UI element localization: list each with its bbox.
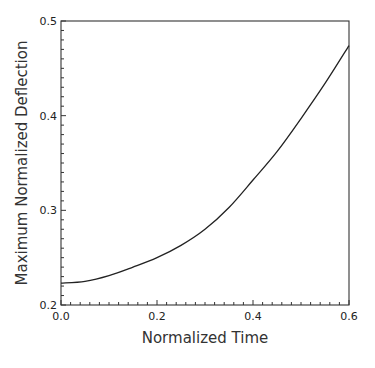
x-tick-label: 0.6 [340,310,358,323]
x-tick-label: 0.4 [244,310,262,323]
x-axis-title: Normalized Time [142,329,269,347]
data-line [61,46,349,284]
y-tick-label: 0.3 [40,204,58,217]
plot-frame [61,21,349,305]
y-tick-label: 0.2 [40,299,58,312]
y-axis-title: Maximum Normalized Deflection [13,41,31,286]
y-tick-label: 0.4 [40,110,58,123]
plot-area: 0.00.20.40.60.20.30.40.5 [40,15,358,323]
x-tick-label: 0.2 [148,310,166,323]
line-chart: 0.00.20.40.60.20.30.40.5 Normalized Time… [0,0,375,368]
y-tick-label: 0.5 [40,15,58,28]
